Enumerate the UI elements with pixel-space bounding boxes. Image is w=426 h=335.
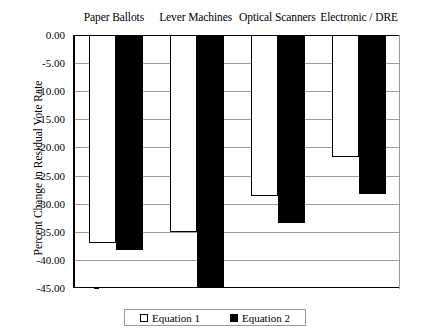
category-label-paper-ballots: Paper Ballots — [73, 6, 155, 28]
legend-label-equation2: Equation 2 — [242, 312, 290, 324]
legend-label-equation1: Equation 1 — [152, 312, 200, 324]
y-tick-label: -35.00 — [37, 227, 65, 237]
plot-top-border — [73, 35, 400, 36]
category-label-row: Paper Ballots Lever Machines Optical Sca… — [73, 6, 400, 28]
bar-equation1 — [251, 35, 278, 196]
open-square-icon — [140, 314, 148, 322]
plot-area — [73, 35, 400, 288]
y-tick-label: -5.00 — [42, 58, 65, 68]
bar-equation1 — [170, 35, 197, 232]
y-axis-tick-labels: 0.00-5.00-10.00-15.00-20.00-25.00-30.00-… — [26, 35, 70, 288]
plot-right-border — [399, 35, 400, 289]
y-tick-label: 0.00 — [46, 30, 65, 40]
y-tick-label: -25.00 — [37, 171, 65, 181]
y-tick-label: -10.00 — [37, 86, 65, 96]
bar-group — [238, 35, 319, 287]
y-tick-label: -15.00 — [37, 114, 65, 124]
y-tick-label: -45.00 — [37, 283, 65, 293]
bar-equation1 — [332, 35, 359, 157]
y-tick-label: -40.00 — [37, 255, 65, 265]
category-label-electronic-dre: Electronic / DRE — [318, 6, 400, 28]
y-tick-label: -30.00 — [37, 199, 65, 209]
y-tick-label: -20.00 — [37, 142, 65, 152]
category-label-lever-machines: Lever Machines — [155, 6, 237, 28]
bar-equation2 — [359, 35, 386, 194]
legend-item-equation1: Equation 1 — [140, 312, 200, 324]
bar-groups — [75, 35, 400, 287]
bar-group — [156, 35, 237, 287]
category-label-optical-scanners: Optical Scanners — [237, 6, 319, 28]
bar-group — [75, 35, 156, 287]
legend: Equation 1 Equation 2 — [124, 309, 306, 326]
bar-equation2 — [278, 35, 305, 223]
y-tick-mark — [94, 288, 99, 289]
bar-equation1 — [89, 35, 116, 243]
legend-item-equation2: Equation 2 — [230, 312, 290, 324]
bar-equation2 — [116, 35, 143, 250]
bar-chart: Paper Ballots Lever Machines Optical Sca… — [0, 0, 426, 335]
solid-square-icon — [230, 314, 238, 322]
bar-group — [319, 35, 400, 287]
bar-equation2 — [197, 35, 224, 287]
